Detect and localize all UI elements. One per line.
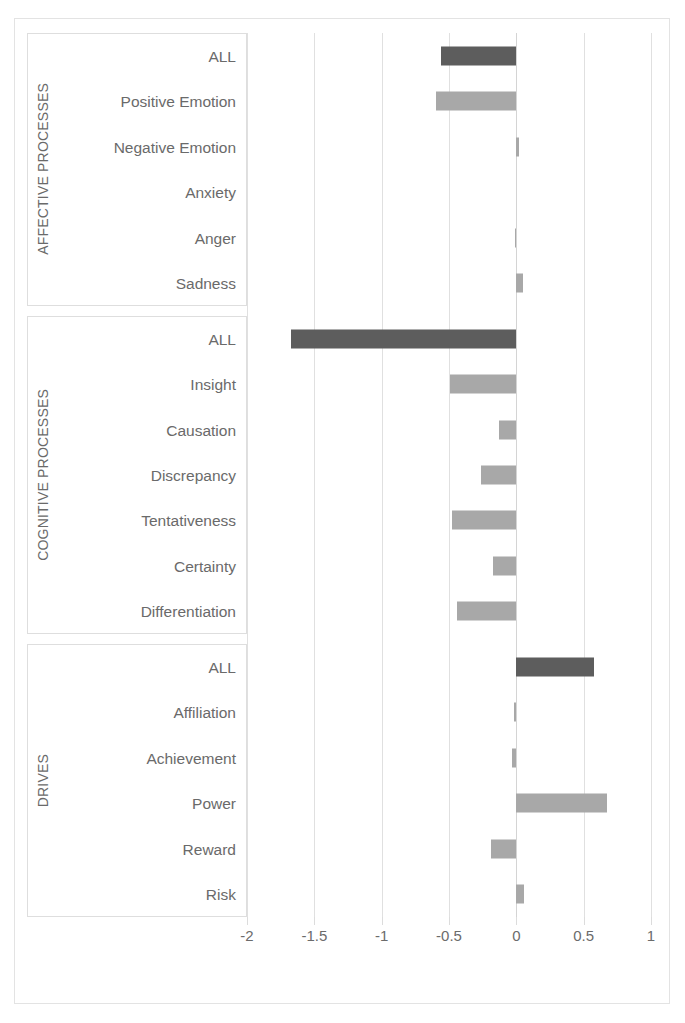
category-label: ALL [208,48,236,66]
bar-all [516,657,594,676]
group-title: AFFECTIVE PROCESSES [30,34,56,305]
gridline--0.5 [449,33,450,917]
category-label: Anger [195,230,236,248]
category-label: Discrepancy [151,467,236,485]
bar-all [291,329,516,348]
group-title-text: DRIVES [35,754,51,807]
category-label: Certainty [174,558,236,576]
group-box-affective-processes: AFFECTIVE PROCESSESALLPositive EmotionNe… [27,33,247,306]
bar-tentativeness [452,511,517,530]
gridline-0.5 [584,33,585,917]
x-tick-label: -2 [240,927,253,944]
category-label: Power [192,795,236,813]
x-tick-label: 1 [647,927,655,944]
gridline--1.5 [314,33,315,917]
bar-negative-emotion [516,137,519,156]
x-tick-label: 0 [512,927,520,944]
chart-frame: AFFECTIVE PROCESSESALLPositive EmotionNe… [14,18,670,1004]
category-label: Positive Emotion [121,93,236,111]
category-label: Reward [183,841,236,859]
bar-positive-emotion [436,92,517,111]
category-label: ALL [208,659,236,677]
category-label: Anxiety [185,184,236,202]
x-tick-label: -1.5 [301,927,327,944]
group-box-drives: DRIVESALLAffiliationAchievementPowerRewa… [27,644,247,917]
category-label: Affiliation [173,704,236,722]
category-label: Insight [190,376,236,394]
bar-achievement [512,748,516,767]
bar-affiliation [514,703,517,722]
x-tick-mark [449,917,450,925]
category-label: Negative Emotion [114,139,236,157]
group-title-text: AFFECTIVE PROCESSES [35,83,51,255]
x-tick-mark [247,917,248,925]
x-tick-label: 0.5 [573,927,594,944]
gridline--1 [382,33,383,917]
x-tick-mark [516,917,517,925]
category-label: Risk [206,886,236,904]
x-tick-label: -0.5 [436,927,462,944]
x-tick-mark [584,917,585,925]
gridline-1 [651,33,652,917]
category-label: Sadness [176,275,236,293]
bar-sadness [516,274,523,293]
bar-power [516,794,606,813]
x-tick-mark [314,917,315,925]
group-box-cognitive-processes: COGNITIVE PROCESSESALLInsightCausationDi… [27,316,247,634]
gridline-0 [516,33,517,917]
bar-differentiation [457,602,516,621]
bar-discrepancy [481,466,516,485]
x-axis: -2-1.5-1-0.500.51 [247,917,651,957]
bar-causation [499,420,517,439]
bar-reward [491,839,517,858]
group-title-text: COGNITIVE PROCESSES [35,389,51,561]
x-tick-label: -1 [375,927,388,944]
group-title: DRIVES [30,645,56,916]
category-label: Differentiation [141,603,236,621]
category-label: Causation [166,422,236,440]
x-tick-mark [382,917,383,925]
gridline--2 [247,33,248,917]
category-label-column: AFFECTIVE PROCESSESALLPositive EmotionNe… [27,33,247,917]
category-label: Tentativeness [141,512,236,530]
bar-risk [516,885,524,904]
plot-area [247,33,651,917]
bar-insight [450,375,516,394]
group-title: COGNITIVE PROCESSES [30,317,56,633]
x-tick-mark [651,917,652,925]
bar-anger [515,228,516,247]
bar-certainty [493,556,516,575]
bar-all [441,46,516,65]
category-label: ALL [208,331,236,349]
category-label: Achievement [146,750,236,768]
